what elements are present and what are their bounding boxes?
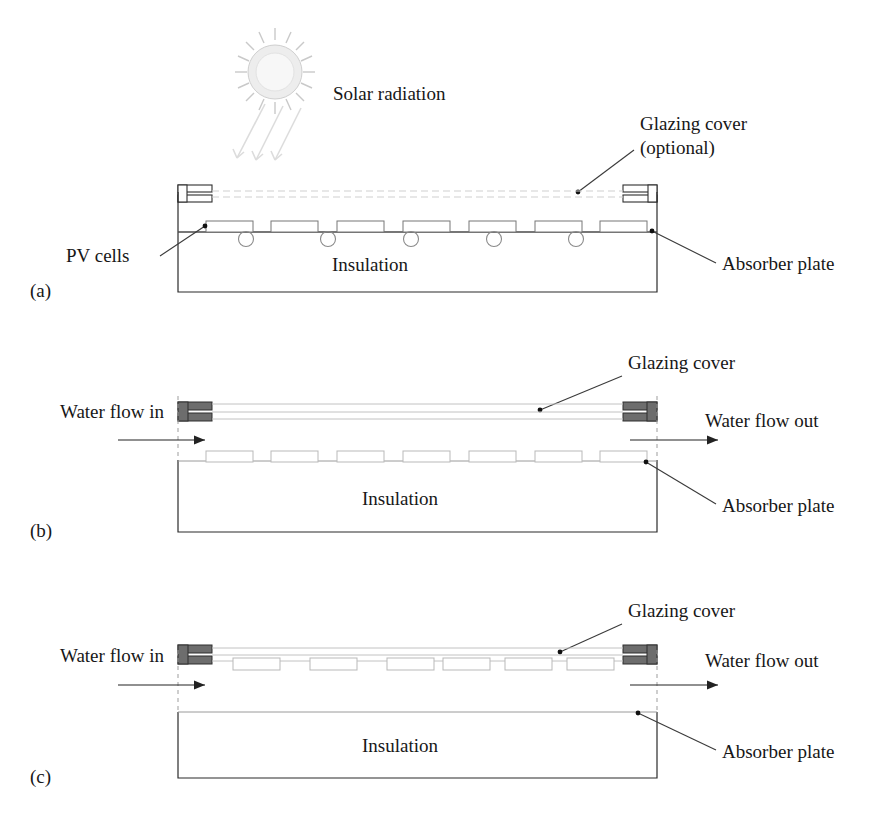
solar-beams [233, 104, 301, 160]
panel-c-absorber-anchor [636, 711, 641, 716]
panel-a-header-left [178, 185, 212, 202]
panel-b-flow-arrow-in [118, 436, 205, 445]
panel-a-glazing-label: Glazing cover [640, 113, 748, 134]
panel-c-absorber-label: Absorber plate [722, 741, 834, 762]
panel-c-absorber-leader [638, 713, 716, 750]
panel-a-insulation-label: Insulation [332, 254, 408, 275]
panel-c-caption: (c) [30, 766, 51, 788]
panel-c-glazing-label: Glazing cover [628, 600, 736, 621]
panel-a-header-right [623, 185, 657, 202]
panel-b-flow-arrow-out [630, 436, 718, 445]
panel-b-header-left [178, 402, 212, 421]
panel-b-absorber-cells [206, 451, 647, 462]
panel-a-absorber-leader [652, 231, 716, 263]
panel-a-pv-anchor [203, 224, 208, 229]
panel-b-glazing-label: Glazing cover [628, 352, 736, 373]
panel-c-flow-arrow-out [630, 681, 718, 690]
panel-b-insulation-label: Insulation [362, 488, 438, 509]
panel-a-riser-tubes [239, 232, 584, 247]
solar-radiation-label: Solar radiation [333, 83, 446, 104]
panel-a-pv-cells-label: PV cells [66, 245, 130, 266]
panel-b-absorber-label: Absorber plate [722, 495, 834, 516]
panel-c-water-out-label: Water flow out [705, 650, 819, 671]
panel-c-water-in-label: Water flow in [60, 645, 164, 666]
panel-a-absorber-anchor [650, 229, 655, 234]
panel-c-glazing-anchor [558, 650, 563, 655]
panel-b-water-out-label: Water flow out [705, 410, 819, 431]
panel-c-flow-arrow-in [118, 681, 205, 690]
panel-c-absorber-cells [233, 658, 614, 670]
panel-a-absorber-label: Absorber plate [722, 253, 834, 274]
figure-solar-collectors: Solar radiation Glazing cover (optional) [0, 0, 883, 820]
panel-b: Glazing cover Water flow in Water flow o [30, 352, 834, 542]
panel-b-caption: (b) [30, 520, 52, 542]
panel-c: Glazing cover [30, 600, 834, 788]
diagram-canvas: Solar radiation Glazing cover (optional) [0, 0, 883, 820]
panel-a-pv-cells [206, 221, 647, 232]
panel-c-header-left [178, 645, 212, 664]
panel-c-header-right [623, 645, 657, 664]
panel-a-glazing-anchor [576, 190, 581, 195]
panel-b-water-in-label: Water flow in [60, 401, 164, 422]
panel-c-insulation-label: Insulation [362, 735, 438, 756]
sun-icon [235, 28, 315, 114]
panel-b-absorber-anchor [644, 460, 649, 465]
panel-a-caption: (a) [30, 280, 51, 302]
panel-b-glazing-leader [540, 376, 622, 410]
panel-b-header-right [623, 402, 657, 421]
panel-a-pv-leader [160, 226, 205, 256]
panel-a-glazing-note: (optional) [640, 137, 715, 159]
panel-a: Glazing cover (optional) [30, 113, 834, 302]
